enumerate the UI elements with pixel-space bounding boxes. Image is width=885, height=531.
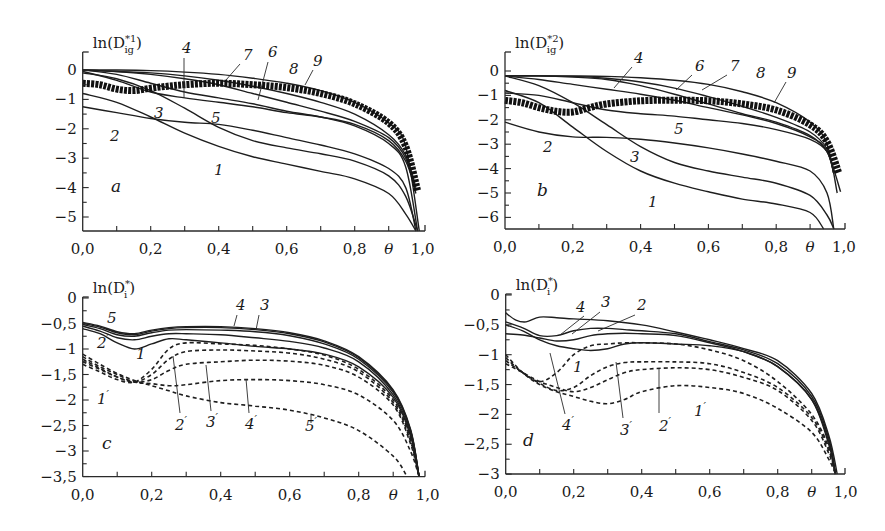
curve-label-1: 1: [136, 345, 146, 363]
curve-label-1-prime: 1′: [97, 388, 110, 408]
panel-letter: d: [523, 430, 534, 450]
curves: [83, 323, 419, 477]
series-5-line: [83, 70, 418, 231]
x-tick-label: 0,6: [278, 486, 302, 504]
panel-letter: c: [102, 433, 112, 453]
x-tick-label: 1,0: [416, 486, 440, 504]
curve-label-6: 6: [695, 57, 705, 75]
y-tick-label: −5: [477, 184, 499, 202]
series-1-line: [83, 329, 419, 477]
x-axis-label: θ: [806, 238, 815, 256]
curve-label-7: 7: [243, 46, 253, 64]
curve-label-7: 7: [730, 57, 740, 75]
y-tick-label: 0: [490, 286, 500, 304]
x-axis-label: θ: [389, 486, 398, 504]
y-axis-label: ln(D*1ig): [93, 33, 142, 55]
curve-label-4: 4: [633, 49, 644, 67]
series-4-prime-line: [506, 343, 836, 474]
x-axis-label: θ: [384, 240, 393, 258]
curve-label-1: 1: [573, 358, 583, 376]
x-tick-label: 0,0: [493, 238, 517, 256]
y-tick-label: 0: [67, 61, 77, 79]
x-tick-label: 0,4: [207, 240, 231, 258]
x-tick-label: 0,0: [494, 483, 518, 501]
series-9-line: [505, 100, 839, 173]
series-4-line: [506, 313, 838, 474]
x-tick-label: 0,2: [140, 486, 164, 504]
curve-label-1: 1: [214, 161, 224, 179]
x-tick-label: 0,4: [630, 483, 654, 501]
curve-label-8: 8: [756, 64, 766, 82]
curve-label-4-prime: 4′: [561, 414, 575, 434]
y-tick-label: −3: [478, 465, 500, 483]
y-tick-label: −1: [478, 346, 500, 364]
x-tick-label: 0,6: [696, 238, 720, 256]
curve-label-1-prime: 1′: [694, 400, 707, 420]
curve-label-2-prime: 2′: [174, 414, 188, 434]
series-1-line: [83, 94, 416, 232]
y-axis-label: ln(D*i): [516, 275, 558, 297]
x-tick-label: 0,6: [275, 240, 299, 258]
panel-letter: a: [111, 176, 121, 196]
x-tick-label: 1,0: [832, 238, 856, 256]
y-tick-label: −1,5: [463, 376, 499, 394]
label-leader-line: [305, 70, 313, 85]
x-tick-label: 0,8: [343, 240, 367, 258]
x-tick-label: 0,0: [71, 486, 95, 504]
y-tick-label: 0: [67, 289, 77, 307]
curve-label-5: 5: [674, 120, 684, 138]
curves: [505, 76, 841, 229]
curve-label-4: 4: [181, 39, 192, 57]
panel-c-chart: 0,00,20,40,60,81,0θ0−0,5−1−1,5−2−2,5−3−3…: [40, 278, 439, 504]
y-tick-label: −2,5: [463, 435, 499, 453]
curve-label-9: 9: [787, 64, 797, 82]
y-tick-label: −0,5: [463, 316, 499, 334]
y-tick-label: −1,5: [40, 366, 76, 384]
series-2-line: [506, 333, 836, 474]
y-tick-label: −2,5: [40, 417, 76, 435]
y-tick-label: −1: [477, 86, 499, 104]
figure: 0,00,20,40,60,81,0θ0−1−2−3−4−5ln(D*1ig)4…: [0, 0, 885, 531]
curve-label-2: 2: [109, 127, 120, 145]
y-tick-label: −1: [55, 90, 77, 108]
label-leader-line: [616, 362, 623, 418]
series-8-line: [83, 70, 420, 231]
series-9-line: [83, 83, 418, 190]
curve-label-2: 2: [542, 138, 553, 156]
label-leader-line: [206, 365, 211, 411]
x-tick-label: 0,2: [561, 238, 585, 256]
curve-label-2-prime: 2′: [96, 332, 110, 352]
curve-label-9: 9: [313, 52, 323, 70]
x-tick-label: 1,0: [411, 240, 435, 258]
y-axis-label: ln(D*i): [93, 278, 135, 300]
x-tick-label: 0,0: [71, 240, 95, 258]
label-leader-line: [234, 315, 237, 326]
curve-label-3: 3: [260, 296, 270, 314]
x-tick-label: 0,2: [562, 483, 586, 501]
x-tick-label: 0,4: [209, 486, 233, 504]
y-axis-label: ln(D*2ig): [515, 33, 564, 55]
y-tick-label: −5: [55, 208, 77, 226]
panel-d-chart: 0,00,20,40,60,81,0θ0−0,5−1−1,5−2−2,5−3ln…: [463, 275, 857, 501]
panel-b-chart: 0,00,20,40,60,81,0θ0−1−2−3−4−5−6ln(D*2ig…: [477, 33, 856, 256]
y-tick-label: −3: [477, 135, 499, 153]
curve-label-4: 4: [575, 298, 586, 316]
y-tick-label: −0,5: [40, 315, 76, 333]
curve-label-3: 3: [154, 104, 164, 122]
curve-label-4-prime: 4′: [244, 413, 258, 433]
y-tick-label: −3: [55, 149, 77, 167]
x-tick-label: 1,0: [834, 483, 858, 501]
x-tick-label: 0,8: [764, 238, 788, 256]
label-leader-line: [258, 62, 268, 100]
series-1-prime-line: [83, 343, 419, 477]
curve-label-8: 8: [289, 60, 299, 78]
curves: [506, 313, 838, 474]
series-6-line: [505, 76, 834, 174]
y-tick-label: −2: [55, 120, 77, 138]
curve-label-5-prime: 5′: [305, 415, 318, 435]
panel-letter: b: [537, 180, 548, 200]
label-leader-line: [774, 82, 786, 103]
y-tick-label: −1: [55, 340, 77, 358]
label-leader-line: [173, 356, 180, 413]
curve-label-3: 3: [630, 148, 640, 166]
